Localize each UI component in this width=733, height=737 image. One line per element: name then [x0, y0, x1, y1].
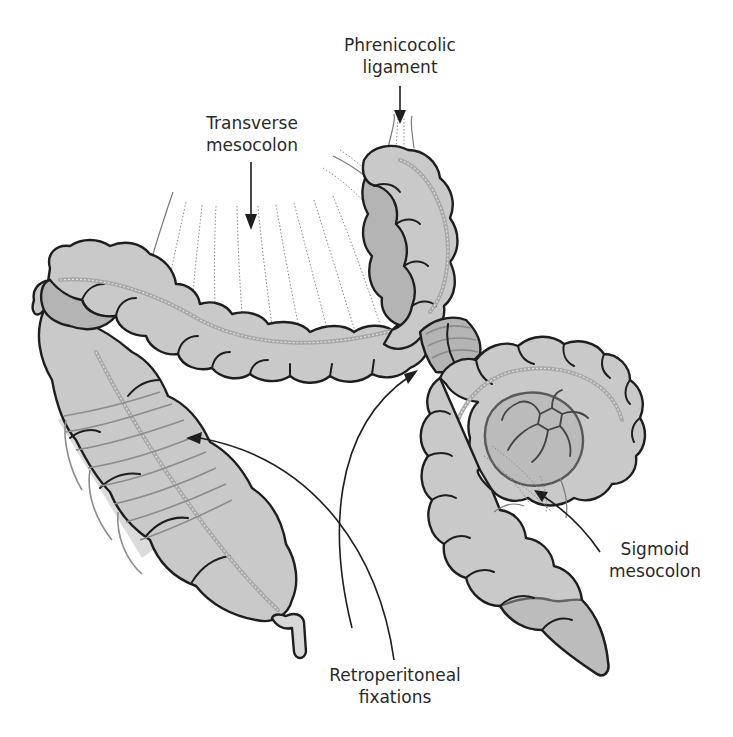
leader-retroperitoneal-descending — [339, 370, 418, 628]
label-retroperitoneal-line2: fixations — [315, 686, 475, 708]
label-phrenicocolic-line1: Phrenicocolic — [330, 34, 470, 56]
colon-anatomy-diagram — [0, 0, 733, 737]
label-transverse-line1: Transverse — [192, 112, 312, 134]
leader-phrenicocolic — [394, 86, 406, 124]
label-transverse-line2: mesocolon — [192, 134, 312, 156]
label-sigmoid-mesocolon: Sigmoid mesocolon — [596, 538, 714, 582]
label-phrenicocolic-ligament: Phrenicocolic ligament — [330, 34, 470, 78]
leader-transverse-mesocolon — [245, 162, 257, 230]
appendix — [272, 614, 306, 658]
label-transverse-mesocolon: Transverse mesocolon — [192, 112, 312, 156]
label-sigmoid-line2: mesocolon — [596, 560, 714, 582]
label-retroperitoneal-fixations: Retroperitoneal fixations — [315, 664, 475, 708]
label-sigmoid-line1: Sigmoid — [596, 538, 714, 560]
label-phrenicocolic-line2: ligament — [330, 56, 470, 78]
label-retroperitoneal-line1: Retroperitoneal — [315, 664, 475, 686]
